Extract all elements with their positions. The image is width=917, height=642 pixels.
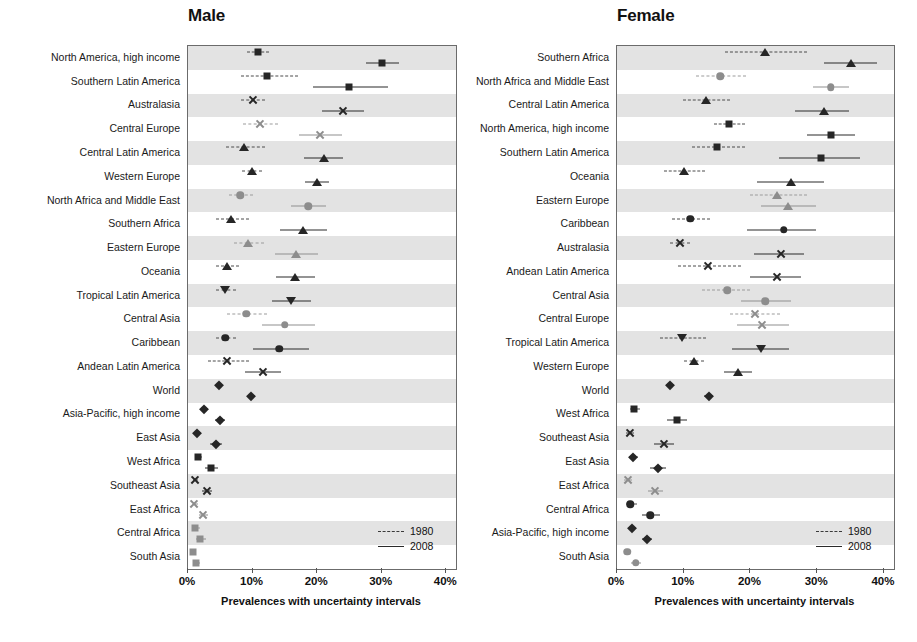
row-label: Eastern Europe [0,242,180,253]
row-band [617,379,894,403]
solid-line-icon [378,546,404,547]
marker-square [378,60,385,67]
row-label: West Africa [457,408,609,419]
marker-tri [222,262,232,270]
marker-tri [783,202,793,210]
marker-x [650,486,660,496]
marker-square [345,84,352,91]
axis-tick [683,568,684,573]
axis-tick [316,568,317,573]
marker-circle [632,559,640,567]
plot-area-male: 19802008 [187,45,457,570]
axis-tick-label: 10% [671,575,694,587]
plot-area-female: 19802008 [616,45,895,570]
marker-x [255,119,265,129]
legend-label: 2008 [848,540,871,552]
marker-circle [627,500,635,508]
panel-male: Male North America, high incomeSouthern … [0,0,460,642]
marker-circle [761,297,769,305]
row-band [188,379,456,403]
marker-x [675,238,685,248]
row-label: Southern Africa [0,218,180,229]
row-label: Central Europe [0,123,180,134]
marker-square [631,405,638,412]
marker-square [818,155,825,162]
axis-tick-label: 0% [179,575,196,587]
marker-diamond [215,415,224,424]
axis-tick-label: 40% [871,575,894,587]
axis-tick-label: 30% [805,575,828,587]
row-label: Andean Latin America [457,266,609,277]
marker-square [208,464,215,471]
axis-tick [187,568,188,573]
marker-square [192,524,199,531]
row-label: Southeast Asia [0,480,180,491]
marker-itri [677,334,687,342]
marker-x [198,510,208,520]
axis-tick-label: 20% [738,575,761,587]
marker-tri [298,226,308,234]
marker-tri [291,250,301,258]
row-label: Tropical Latin America [0,289,180,300]
row-label: Oceania [0,266,180,277]
marker-circle [304,202,312,210]
row-band [188,426,456,450]
row-label: Tropical Latin America [457,337,609,348]
row-band [188,474,456,498]
marker-tri [786,178,796,186]
row-band [617,94,894,118]
marker-square [714,144,721,151]
marker-x [258,367,268,377]
row-band [617,141,894,165]
marker-circle [780,226,788,234]
legend: 19802008 [378,525,450,555]
marker-square [254,49,261,56]
axis-tick [616,568,617,573]
marker-itri [220,286,230,294]
marker-tri [679,167,689,175]
marker-circle [827,83,835,91]
dashed-line-icon [378,531,404,532]
row-label: Southeast Asia [457,432,609,443]
panel-title-male: Male [188,6,225,26]
row-label: North America, high income [457,123,609,134]
marker-tri [290,273,300,281]
marker-x [623,475,633,485]
row-label: World [457,384,609,395]
solid-line-icon [816,546,842,547]
row-label: Central Asia [457,289,609,300]
marker-circle [687,215,695,223]
marker-tri [846,59,856,67]
marker-x [189,499,199,509]
marker-circle [222,334,230,342]
marker-square [674,416,681,423]
row-band [188,236,456,260]
marker-square [193,559,200,566]
legend-label: 1980 [410,525,433,537]
marker-tri [819,107,829,115]
row-label: Western Europe [0,171,180,182]
row-label: East Asia [0,432,180,443]
marker-itri [286,297,296,305]
marker-x [248,95,258,105]
legend-2008: 2008 [378,540,450,552]
row-label: West Africa [0,456,180,467]
legend-2008: 2008 [816,540,888,552]
row-label: North America, high income [0,52,180,63]
marker-tri [733,368,743,376]
x-axis-title: Prevalences with uncertainty intervals [221,595,421,607]
row-label: Western Europe [457,361,609,372]
marker-diamond [654,463,663,472]
axis-tick [252,568,253,573]
legend: 19802008 [816,525,888,555]
marker-square [828,131,835,138]
marker-x [750,309,760,319]
axis-tick [883,568,884,573]
marker-x [703,261,713,271]
legend-1980: 1980 [816,525,888,537]
marker-x [202,486,212,496]
row-label: North Africa and Middle East [0,194,180,205]
panel-female: Female Southern AfricaNorth Africa and M… [457,0,917,642]
marker-tri [247,167,257,175]
row-band [188,94,456,118]
